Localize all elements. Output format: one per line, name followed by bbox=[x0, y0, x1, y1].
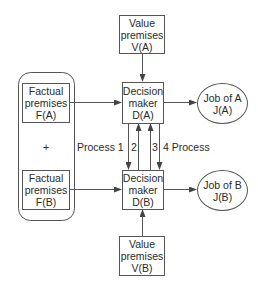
process-4-label: 4 Process bbox=[163, 141, 210, 153]
value-b-line-1: Value bbox=[129, 238, 155, 250]
plus-sign: + bbox=[40, 141, 52, 153]
decision-b-line-3: D(B) bbox=[132, 196, 154, 208]
decision-a-line-2: maker bbox=[128, 97, 157, 109]
job-b-line-1: Job of B bbox=[203, 179, 242, 191]
factual-a-line-3: F(A) bbox=[36, 109, 56, 121]
value-a-line-3: V(A) bbox=[132, 41, 153, 53]
job-a-line-1: Job of A bbox=[204, 92, 242, 104]
process-3-label: 3 bbox=[151, 141, 159, 153]
value-premises-b-box: Value premises V(B) bbox=[119, 236, 165, 276]
decision-a-line-3: D(A) bbox=[132, 109, 154, 121]
factual-a-line-1: Factual bbox=[29, 85, 63, 97]
decision-b-line-1: Decision bbox=[123, 172, 163, 184]
value-b-line-2: premises bbox=[121, 250, 164, 262]
factual-b-line-2: premises bbox=[25, 184, 68, 196]
job-a-ellipse: Job of A J(A) bbox=[197, 83, 248, 124]
value-premises-a-box: Value premises V(A) bbox=[119, 15, 165, 54]
process-1-label: Process 1 bbox=[77, 141, 124, 153]
factual-b-line-3: F(B) bbox=[36, 196, 56, 208]
value-a-line-1: Value bbox=[129, 17, 155, 29]
decision-maker-a-box: Decision maker D(A) bbox=[122, 82, 164, 124]
job-b-line-2: J(B) bbox=[213, 191, 232, 203]
value-b-line-3: V(B) bbox=[132, 262, 153, 274]
value-a-line-2: premises bbox=[121, 29, 164, 41]
process-2-label: 2 bbox=[130, 141, 138, 153]
job-b-ellipse: Job of B J(B) bbox=[197, 170, 248, 211]
decision-a-line-1: Decision bbox=[123, 85, 163, 97]
factual-b-line-1: Factual bbox=[29, 172, 63, 184]
decision-maker-b-box: Decision maker D(B) bbox=[122, 170, 164, 210]
job-a-line-2: J(A) bbox=[213, 104, 232, 116]
factual-premises-b-box: Factual premises F(B) bbox=[22, 170, 70, 210]
decision-b-line-2: maker bbox=[128, 184, 157, 196]
factual-a-line-2: premises bbox=[25, 97, 68, 109]
factual-premises-a-box: Factual premises F(A) bbox=[22, 83, 70, 123]
